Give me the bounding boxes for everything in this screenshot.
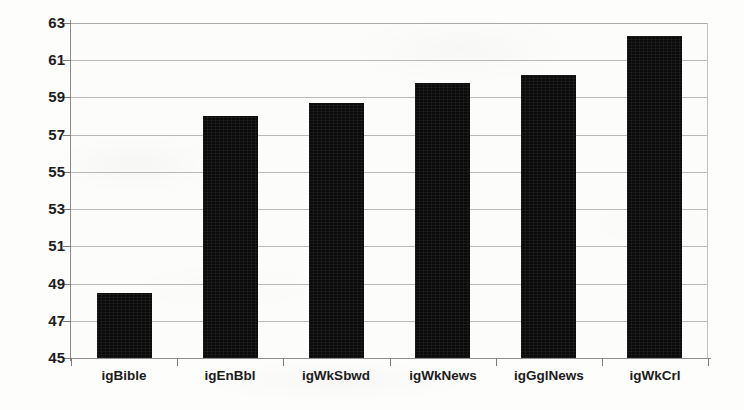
bar [415, 83, 470, 358]
gridline [71, 321, 708, 322]
bar [627, 36, 682, 358]
gridline [71, 97, 708, 98]
y-axis-tick-label: 57 [19, 127, 65, 142]
gridline [71, 284, 708, 285]
x-axis-tick-mark [708, 358, 709, 366]
y-axis-tick-label: 45 [19, 350, 65, 365]
y-axis-tick-label: 51 [19, 238, 65, 253]
x-axis-line [63, 358, 711, 359]
x-axis-tick-mark [283, 358, 284, 366]
x-axis-tick-label: igGglNews [496, 369, 602, 383]
bar [521, 75, 576, 358]
plot-right-border [707, 23, 708, 358]
x-axis-tick-label: igBible [71, 369, 177, 383]
gridline [71, 172, 708, 173]
bar [309, 103, 364, 358]
x-axis-tick-mark [71, 358, 72, 366]
gridline [71, 135, 708, 136]
x-axis-tick-mark [177, 358, 178, 366]
bar-chart: 63615957555351494745 igBibleigEnBbligWkS… [0, 0, 744, 410]
y-axis-tick-label: 59 [19, 89, 65, 104]
gridline [71, 60, 708, 61]
y-axis-tick-label: 47 [19, 313, 65, 328]
y-axis-tick-label: 63 [19, 15, 65, 30]
bar [97, 293, 152, 358]
x-axis-tick-mark [390, 358, 391, 366]
x-axis-tick-mark [496, 358, 497, 366]
gridline [71, 246, 708, 247]
x-axis-tick-label: igWkNews [390, 369, 496, 383]
gridline [71, 209, 708, 210]
bar [203, 116, 258, 358]
y-axis-tick-label: 61 [19, 52, 65, 67]
y-axis-tick-label: 55 [19, 164, 65, 179]
gridline [71, 23, 708, 24]
y-axis-tick-label: 49 [19, 276, 65, 291]
x-axis-tick-mark [602, 358, 603, 366]
x-axis-tick-label: igWkSbwd [283, 369, 389, 383]
plot-area [71, 23, 708, 358]
x-axis-tick-label: igEnBbl [177, 369, 283, 383]
x-axis-tick-label: igWkCrl [602, 369, 708, 383]
y-axis-line [70, 20, 71, 361]
y-axis-tick-label: 53 [19, 201, 65, 216]
